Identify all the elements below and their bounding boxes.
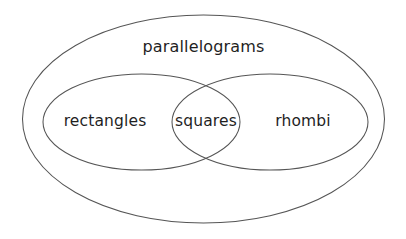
venn-diagram-canvas: parallelograms rectangles squares rhombi [0,0,406,239]
label-rhombi: rhombi [275,112,331,130]
label-rectangles: rectangles [64,112,147,130]
label-parallelograms: parallelograms [143,37,265,56]
label-squares: squares [175,112,237,130]
venn-diagram: parallelograms rectangles squares rhombi [0,0,406,239]
